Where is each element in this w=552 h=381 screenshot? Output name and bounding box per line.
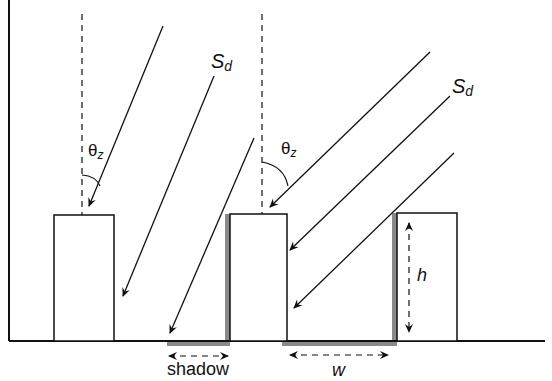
sd-label-left: Sd — [211, 50, 232, 74]
width-label: w — [332, 360, 345, 381]
canyon-diagram — [0, 0, 552, 381]
ray-arrow — [270, 52, 430, 207]
theta-sub: z — [97, 148, 103, 162]
ray-arrow — [89, 26, 163, 206]
theta-label-left: θz — [88, 141, 103, 162]
zenith-angle-arc-right — [262, 162, 288, 186]
shadow-label: shadow — [167, 359, 229, 380]
theta-label-right: θz — [281, 139, 296, 160]
sd-main: S — [452, 75, 465, 97]
sd-sub: d — [224, 58, 232, 74]
sd-label-right: Sd — [452, 75, 473, 99]
sd-sub: d — [465, 83, 473, 99]
height-label: h — [417, 265, 427, 286]
theta-sub: z — [290, 146, 296, 160]
building-1 — [54, 215, 114, 341]
sd-main: S — [211, 50, 224, 72]
building-2 — [230, 214, 287, 341]
